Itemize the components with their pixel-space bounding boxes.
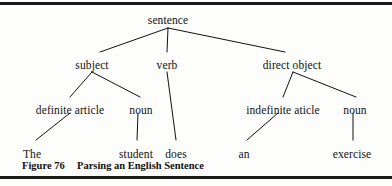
node-indefinite-article: indefinite aticle (246, 104, 320, 117)
node-noun-subject: noun (129, 104, 152, 117)
node-direct-object: direct object (263, 59, 321, 72)
edge-indefinite_article-to-leaf_an (247, 113, 278, 140)
edge-direct_object-to-indefinite_article (283, 72, 293, 97)
edge-direct_object-to-noun_object (293, 72, 356, 97)
edge-sentence-to-verb (167, 28, 168, 52)
figure-number: Figure 76 (22, 160, 65, 172)
edge-verb-to-leaf_does (167, 72, 176, 140)
leaf-exercise: exercise (333, 148, 371, 161)
node-noun-object: noun (343, 104, 366, 117)
leaf-an: an (238, 148, 249, 161)
edge-sentence-to-subject (100, 28, 168, 52)
edge-subject-to-definite_article (70, 72, 92, 97)
figure-page: sentence subject verb direct object defi… (0, 0, 392, 186)
node-definite-article: definite article (36, 104, 104, 117)
edge-sentence-to-direct_object (168, 28, 285, 52)
node-verb: verb (157, 59, 178, 72)
node-subject: subject (75, 59, 108, 72)
bottom-rule (0, 176, 392, 179)
edge-subject-to-noun_subject (92, 72, 140, 97)
figure-title: Parsing an English Sentence (77, 160, 204, 172)
node-sentence: sentence (148, 14, 188, 27)
edge-noun_subject-to-leaf_student (137, 113, 138, 140)
edge-definite_article-to-leaf_the (36, 113, 70, 140)
